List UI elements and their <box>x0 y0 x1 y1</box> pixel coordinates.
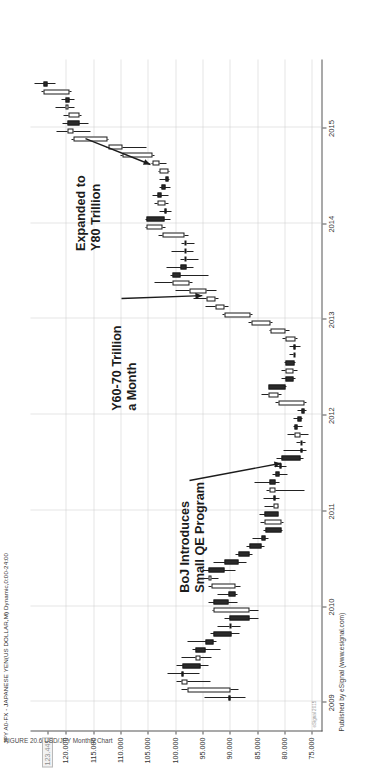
candlestick <box>30 368 321 373</box>
gridline-vertical <box>30 605 321 606</box>
candlestick <box>30 440 321 445</box>
candle-body-bearish <box>228 591 236 596</box>
candlestick <box>30 408 321 413</box>
candlestick <box>30 607 321 612</box>
gridline-vertical <box>30 700 321 701</box>
price-axis-tick <box>229 731 230 734</box>
candlestick <box>30 328 321 333</box>
candlestick <box>30 567 321 572</box>
candlestick <box>30 97 321 102</box>
time-axis-label: 2009 <box>326 694 335 711</box>
price-axis-label: 105.000 <box>143 737 152 772</box>
candle-body-bullish <box>195 655 200 660</box>
annotation-line: Small QE Program <box>192 482 207 593</box>
time-axis-tick <box>322 223 326 224</box>
candle-wick <box>55 107 74 108</box>
candle-body-bullish <box>270 328 285 333</box>
annotation-line: Expanded to <box>73 175 88 251</box>
time-axis-label: 2014 <box>326 215 335 232</box>
candlestick <box>30 112 321 117</box>
candle-body-bearish <box>146 216 163 221</box>
candle-body-bearish <box>213 599 227 604</box>
time-axis-label: 2015 <box>326 119 335 136</box>
candle-body-bearish <box>264 511 278 516</box>
candle-wick <box>181 242 194 243</box>
candle-wick <box>171 250 193 251</box>
gridline-vertical <box>30 509 321 510</box>
candle-body-bearish <box>164 208 166 213</box>
price-axis-tick <box>65 731 66 734</box>
annotation-arrow-a1 <box>73 126 162 176</box>
time-axis-tick <box>322 701 326 702</box>
candlestick <box>30 264 321 269</box>
candlestick <box>30 655 321 660</box>
candle-body-bullish <box>184 248 186 253</box>
annotation-line: BoJ Introduces <box>177 482 192 593</box>
chart-credit: Published by eSignal (www.esignal.com) <box>337 612 344 731</box>
annotation-line: Y80 Trillion <box>88 175 103 251</box>
candle-body-bearish <box>268 384 285 389</box>
candle-body-bullish <box>278 400 304 405</box>
candle-body-bearish <box>172 272 179 277</box>
candle-body-bearish <box>161 184 165 189</box>
candlestick <box>30 256 321 261</box>
candlestick <box>30 432 321 437</box>
chart-annotation-a3: BoJ IntroducesSmall QE Program <box>177 482 207 593</box>
price-axis-tick <box>147 731 148 734</box>
time-axis-label: 2010 <box>326 598 335 615</box>
candle-body-bullish <box>251 320 271 325</box>
candle-body-bullish <box>285 368 293 373</box>
candlestick <box>30 424 321 429</box>
candlestick <box>30 511 321 516</box>
candle-body-bullish <box>68 112 79 117</box>
price-axis-label: 110.000 <box>116 737 125 772</box>
candle-body-bearish <box>180 264 187 269</box>
candlestick <box>30 519 321 524</box>
candle-body-bearish <box>285 376 293 381</box>
price-axis-label: 75.000 <box>307 737 316 772</box>
candle-body-bearish <box>43 81 47 86</box>
candlestick <box>30 89 321 94</box>
figure-caption: FIGURE 20.6 USD/JPY Monthly Chart <box>4 737 113 744</box>
candle-body-bearish <box>182 663 200 668</box>
candle-body-bullish <box>285 336 295 341</box>
candle-body-bearish <box>297 416 301 421</box>
candle-body-bearish <box>238 551 249 556</box>
candlestick <box>30 671 321 676</box>
annotation-arrow-a3 <box>177 451 293 492</box>
candlestick <box>30 120 321 125</box>
price-axis-tick <box>120 731 121 734</box>
candle-body-bearish <box>294 424 297 429</box>
candlestick <box>30 344 321 349</box>
price-axis-tick <box>47 731 48 734</box>
candlestick <box>30 591 321 596</box>
candlestick <box>30 535 321 540</box>
annotation-line: Y60-70 Trillion <box>109 325 124 410</box>
annotation-line: a Month <box>124 325 139 410</box>
candle-body-bearish <box>165 176 167 181</box>
candle-body-bullish <box>184 240 186 245</box>
candlestick <box>30 543 321 548</box>
price-axis-label: 80.000 <box>279 737 288 772</box>
candlestick <box>30 599 321 604</box>
candle-body-bearish <box>195 647 205 652</box>
candle-body-bullish <box>187 687 230 692</box>
candlestick <box>30 527 321 532</box>
time-axis-tick <box>322 318 326 319</box>
candle-wick <box>204 697 245 698</box>
candle-body-bullish <box>213 607 248 612</box>
candlestick <box>30 663 321 668</box>
candlestick <box>30 495 321 500</box>
candle-body-bullish <box>211 583 236 588</box>
candlestick <box>30 639 321 644</box>
candle-body-bullish <box>229 623 232 628</box>
candle-body-bullish <box>65 105 68 110</box>
candlestick <box>30 416 321 421</box>
price-axis-tick <box>175 731 176 734</box>
candle-body-bearish <box>65 97 69 102</box>
time-axis-tick <box>322 127 326 128</box>
candlestick <box>30 503 321 508</box>
chart-annotation-a2: Y60-70 Trilliona Month <box>109 325 139 410</box>
candle-wick <box>180 258 197 259</box>
